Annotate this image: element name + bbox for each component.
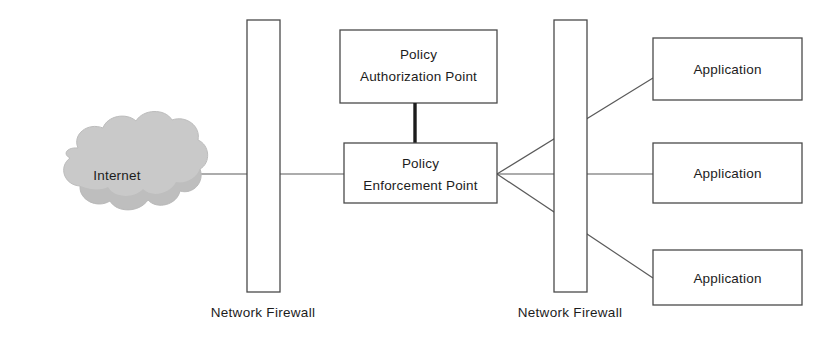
firewall-left-shape — [247, 20, 280, 292]
policy-enforcement-point-label-line-2: Enforcement Point — [363, 178, 478, 193]
network-architecture-diagram: Internet Network Firewall Policy Authori… — [0, 0, 834, 338]
policy-authorization-point-label-line-1: Policy — [400, 47, 437, 62]
firewall-left-node: Network Firewall — [211, 20, 316, 320]
policy-enforcement-point-shape — [344, 143, 497, 203]
application-bottom-label: Application — [693, 271, 761, 286]
diagram-canvas: Internet Network Firewall Policy Authori… — [0, 0, 834, 338]
application-top-label: Application — [693, 62, 761, 77]
application-top-node: Application — [653, 38, 802, 100]
firewall-left-label: Network Firewall — [211, 305, 316, 320]
firewall-right-shape — [554, 20, 587, 292]
firewall-right-label: Network Firewall — [518, 305, 623, 320]
internet-cloud-node: Internet — [64, 111, 208, 209]
application-bottom-node: Application — [653, 250, 802, 305]
internet-cloud-label: Internet — [93, 168, 140, 183]
policy-enforcement-point-label-line-1: Policy — [402, 156, 439, 171]
policy-enforcement-point-node: Policy Enforcement Point — [344, 143, 497, 203]
policy-authorization-point-label-line-2: Authorization Point — [360, 69, 477, 84]
policy-authorization-point-shape — [340, 30, 497, 103]
application-middle-label: Application — [693, 166, 761, 181]
policy-authorization-point-node: Policy Authorization Point — [340, 30, 497, 103]
firewall-right-node: Network Firewall — [518, 20, 623, 320]
application-middle-node: Application — [653, 143, 802, 203]
